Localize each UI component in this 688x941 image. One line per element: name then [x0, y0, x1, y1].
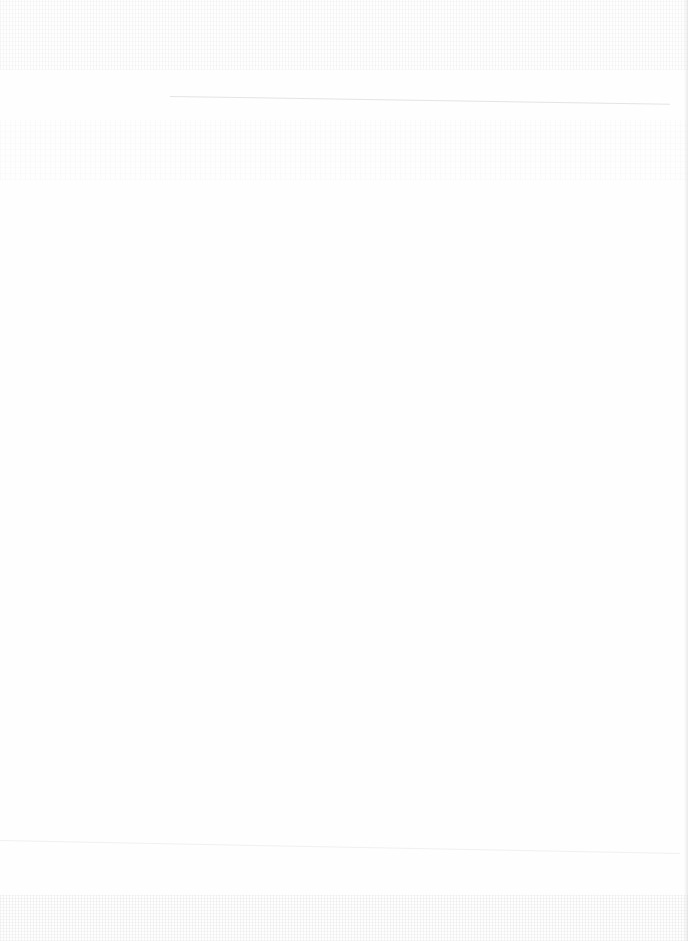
- scan-streak: [0, 840, 680, 854]
- page-edge-shadow: [684, 0, 688, 941]
- scan-noise-middle: [0, 120, 688, 180]
- scan-streak: [170, 96, 670, 105]
- scan-noise-bottom: [0, 895, 688, 941]
- scan-noise-top: [0, 0, 688, 70]
- blank-document-page: [0, 0, 688, 941]
